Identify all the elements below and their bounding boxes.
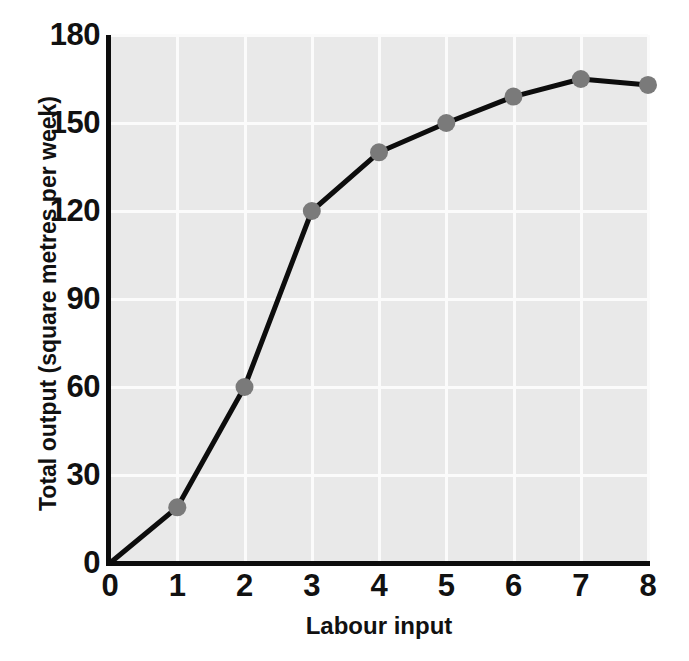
x-axis-line xyxy=(106,561,650,566)
plot-area xyxy=(110,35,648,563)
x-tick-label: 3 xyxy=(289,570,335,601)
chart-figure: 0306090120150180 012345678 Total output … xyxy=(0,0,689,661)
gridline-horizontal xyxy=(110,474,648,477)
y-axis-title: Total output (square metres per week) xyxy=(35,44,62,564)
x-tick-label: 5 xyxy=(423,570,469,601)
x-tick-label: 0 xyxy=(87,570,133,601)
x-tick-label: 7 xyxy=(558,570,604,601)
x-tick-label: 2 xyxy=(222,570,268,601)
gridline-horizontal xyxy=(110,210,648,213)
x-tick-label: 6 xyxy=(491,570,537,601)
gridline-horizontal xyxy=(110,122,648,125)
x-tick-label: 8 xyxy=(625,570,671,601)
x-tick-label: 1 xyxy=(154,570,200,601)
x-axis-title: Labour input xyxy=(110,612,648,640)
gridline-horizontal xyxy=(110,298,648,301)
y-axis-line xyxy=(106,35,111,565)
gridline-horizontal xyxy=(110,34,648,37)
gridline-horizontal xyxy=(110,386,648,389)
x-tick-label: 4 xyxy=(356,570,402,601)
